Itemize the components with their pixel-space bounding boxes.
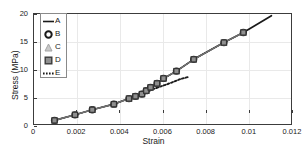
x-tick-mark [119,110,120,113]
data-point-marker [133,94,138,99]
legend-box: A B C D E [40,13,67,78]
plot-area [33,13,292,125]
legend-label-c: C [55,40,61,53]
line-solid-icon [42,14,55,27]
x-tick-mark [249,110,250,113]
y-tick-mark [34,70,37,71]
data-series-layer [34,14,293,126]
square-marker-icon [42,53,55,66]
x-tick-label: 0.01 [227,127,271,136]
triangle-marker-icon [42,40,55,53]
legend-item-b: B [41,27,66,40]
data-point-marker [241,30,246,35]
series-line-d [55,32,244,120]
legend-item-e: E [41,66,66,79]
x-tick-label: 0.006 [141,127,185,136]
y-tick-mark [34,98,37,99]
y-tick-mark [34,14,37,15]
legend-item-a: A [41,14,66,27]
circle-marker-icon [42,27,55,40]
legend-label-b: B [55,27,60,40]
stress-strain-chart: A B C D E 00.0020.0040.0060.0080. [0,0,307,156]
x-tick-mark [206,110,207,113]
y-tick-label: 20 [4,9,28,18]
data-point-marker [191,57,196,62]
legend-label-e: E [55,66,60,79]
x-tick-label: 0.002 [54,127,98,136]
series-line-a [55,16,272,121]
data-point-marker [174,69,179,74]
line-dotted-icon [42,66,55,79]
x-tick-mark [292,110,293,113]
x-tick-mark [33,110,34,113]
x-tick-mark [163,110,164,113]
y-tick-label: 15 [4,37,28,46]
y-axis-label: Stress (MPa) [10,50,20,100]
legend-item-d: D [41,53,66,66]
data-point-marker [111,102,116,107]
data-point-marker [148,85,153,90]
data-point-marker [90,107,95,112]
data-point-marker [221,40,226,45]
series-markers [51,29,246,123]
series-lines [55,16,272,121]
y-tick-label: 0 [4,121,28,130]
x-tick-label: 0.004 [97,127,141,136]
data-point-marker [52,118,57,123]
x-axis-label: Strain [0,136,307,146]
data-point-marker [126,96,131,101]
series-line-c [55,32,244,120]
legend-item-c: C [41,40,66,53]
x-tick-mark [76,110,77,113]
x-tick-label: 0.012 [270,127,307,136]
legend-label-d: D [55,53,61,66]
legend-label-a: A [55,14,60,27]
data-point-marker [154,81,159,86]
data-point-marker [161,76,166,81]
x-tick-label: 0.008 [184,127,228,136]
y-tick-mark [34,42,37,43]
series-line-b [55,32,244,120]
